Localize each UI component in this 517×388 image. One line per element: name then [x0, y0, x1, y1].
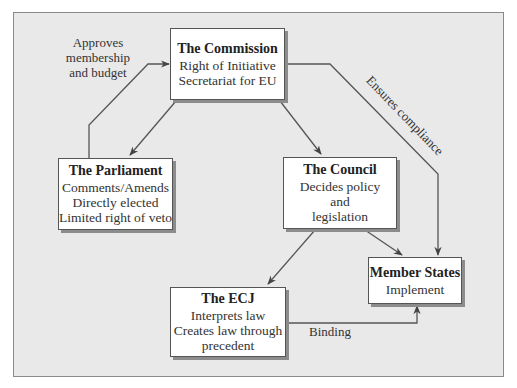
node-parliament: The Parliament Comments/Amends Directly … [58, 158, 173, 230]
node-title: The ECJ [171, 291, 285, 306]
node-line: and [284, 194, 396, 209]
node-line: Interprets law [171, 308, 285, 323]
node-line: Creates law through [171, 323, 285, 338]
edge-ecj-member-states [287, 306, 417, 323]
node-line: Comments/Amends [59, 180, 172, 195]
edge-label-approves: Approves membership and budget [58, 35, 138, 80]
node-member-states: Member States Implement [368, 257, 462, 304]
node-ecj: The ECJ Interprets law Creates law throu… [170, 287, 286, 357]
edge-label-line: membership [58, 50, 138, 65]
edge-council-ecj [268, 230, 315, 284]
node-line: Limited right of veto [59, 210, 172, 225]
node-line: Right of Initiative [171, 58, 284, 73]
node-commission: The Commission Right of Initiative Secre… [170, 28, 285, 100]
node-line: Decides policy [284, 179, 396, 194]
node-line: precedent [171, 338, 285, 353]
node-title: Member States [369, 265, 461, 280]
edge-council-member-states [365, 230, 402, 255]
node-line: Directly elected [59, 195, 172, 210]
node-line: Secretariat for EU [171, 73, 284, 88]
node-council: The Council Decides policy and legislati… [283, 157, 397, 229]
edge-label-binding: Binding [300, 324, 360, 339]
edge-commission-parliament [130, 101, 176, 155]
node-title: The Commission [171, 41, 284, 56]
node-line: Implement [369, 282, 461, 297]
edge-label-line: Approves [58, 35, 138, 50]
node-title: The Parliament [59, 163, 172, 178]
node-title: The Council [284, 162, 396, 177]
edge-label-line: and budget [58, 65, 138, 80]
node-line: legislation [284, 209, 396, 224]
edge-commission-council [280, 101, 321, 154]
